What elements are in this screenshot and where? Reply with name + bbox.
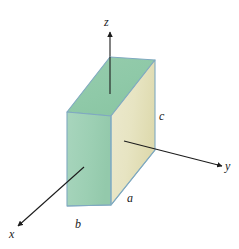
- figure-container: z y x a b c: [0, 0, 239, 249]
- axis-label-x: x: [9, 228, 14, 240]
- axis-label-y: y: [225, 160, 230, 172]
- dimension-label-b: b: [75, 218, 81, 230]
- axis-label-z: z: [104, 16, 109, 28]
- dimension-label-a: a: [127, 192, 133, 204]
- dimension-label-c: c: [159, 110, 164, 122]
- slab-side-face: [67, 112, 111, 206]
- slab-diagram-svg: [0, 0, 239, 249]
